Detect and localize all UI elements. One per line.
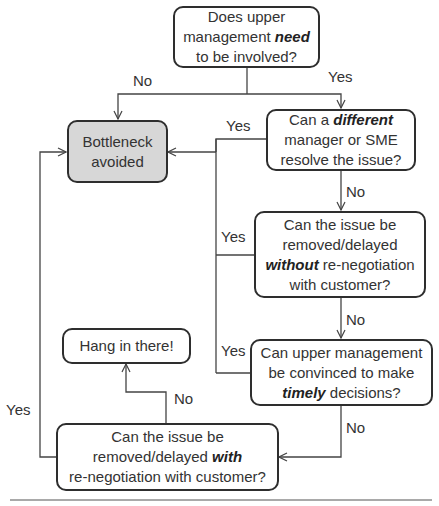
decision-different-manager: Can a different manager or SME resolve t… (266, 109, 416, 171)
label-q1-no: No (133, 72, 152, 90)
q2-prefix: Can a (289, 111, 333, 128)
q1-line-3: to be involved? (183, 47, 310, 67)
label-q5-yes: Yes (6, 401, 30, 419)
q4-emphasis: timely (282, 384, 325, 401)
q3-line-1: Can the issue be (265, 215, 414, 235)
decision-timely-decisions: Can upper management be convinced to mak… (250, 339, 433, 406)
q5-line-1: Can the issue be (69, 427, 266, 447)
label-q2-yes: Yes (226, 117, 250, 135)
q2-line-3: resolve the issue? (281, 150, 402, 170)
q4-line-3: decisions? (326, 384, 401, 401)
q4-line-2: be convinced to make (261, 363, 423, 383)
label-q3-yes: Yes (221, 228, 245, 246)
label-q5-no: No (174, 390, 193, 408)
q3-line-2: removed/delayed (265, 235, 414, 255)
q2-emphasis: different (333, 111, 393, 128)
q5-line-3: re-negotiation with customer? (69, 467, 266, 487)
q5-line-2: removed/delayed (93, 448, 212, 465)
terminal-bottleneck-avoided: Bottleneck avoided (67, 120, 168, 183)
hang-label: Hang in there! (79, 336, 173, 356)
label-q4-yes: Yes (221, 342, 245, 360)
decision-without-renegotiation: Can the issue be removed/delayed without… (254, 211, 426, 298)
q5-emphasis: with (212, 448, 242, 465)
q2-line-2: manager or SME (281, 130, 402, 150)
label-q1-yes: Yes (328, 68, 352, 86)
q1-line-2: management (183, 28, 275, 45)
decision-upper-management-need: Does upper management need to be involve… (173, 6, 320, 68)
label-q3-no: No (346, 311, 365, 329)
q1-emphasis: need (275, 28, 310, 45)
bottleneck-line-2: avoided (82, 152, 152, 172)
q3-line-3: re-negotiation (319, 256, 415, 273)
q4-line-1: Can upper management (261, 343, 423, 363)
label-q4-no: No (346, 419, 365, 437)
bottleneck-line-1: Bottleneck (82, 132, 152, 152)
label-q2-no: No (346, 183, 365, 201)
terminal-hang-in-there: Hang in there! (62, 328, 191, 364)
q3-emphasis: without (265, 256, 318, 273)
decision-with-renegotiation: Can the issue be removed/delayed with re… (56, 423, 279, 491)
q3-line-4: with customer? (265, 275, 414, 295)
q1-line-1: Does upper (183, 7, 310, 27)
